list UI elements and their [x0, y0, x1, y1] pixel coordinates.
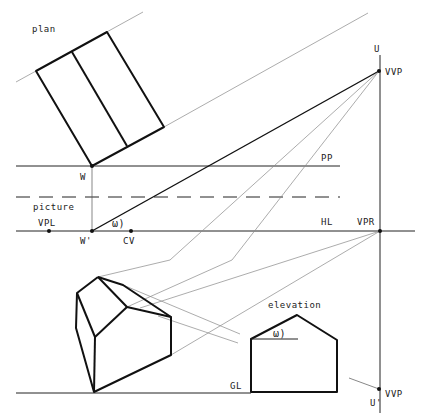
- vpr-construction-line-1: [140, 231, 380, 308]
- label-vvp-bottom: VVP: [385, 389, 403, 399]
- perspective-house-roof-edge: [98, 277, 171, 317]
- perspective-house-front-gable: [77, 293, 95, 337]
- label-omega-picture: ω): [112, 218, 125, 229]
- label-u-prime: U': [370, 398, 382, 408]
- plan-extension-line-right: [164, 13, 368, 127]
- label-cv: CV: [123, 236, 135, 246]
- label-omega-elevation: ω): [273, 328, 286, 339]
- vpr-point: [378, 229, 382, 233]
- label-w-prime: W': [80, 236, 92, 246]
- label-elevation: elevation: [268, 300, 321, 310]
- label-hl: HL: [321, 217, 333, 227]
- plan-ridge-line: [72, 52, 127, 146]
- label-gl: GL: [230, 381, 242, 391]
- w-point: [90, 164, 94, 168]
- label-picture: picture: [33, 202, 74, 212]
- cv-point: [129, 229, 133, 233]
- perspective-house-corner: [94, 337, 95, 392]
- perspective-house-roof-line: [95, 307, 127, 337]
- vvp-bottom-point: [377, 387, 381, 391]
- omega-inclined-line: [92, 71, 379, 231]
- vvp-lower-line: [349, 378, 379, 389]
- label-w: W: [80, 172, 86, 182]
- elevation-house: [251, 315, 337, 392]
- vpl-point: [47, 229, 51, 233]
- label-pp: PP: [321, 153, 333, 163]
- w-prime-point: [90, 229, 94, 233]
- perspective-house-outline: [76, 277, 171, 392]
- label-vpr: VPR: [357, 217, 375, 227]
- vvp-construction-line-4: [98, 260, 170, 277]
- perspective-diagram: plan picture elevation PP HL GL W W' VPL…: [0, 0, 426, 419]
- label-u: U: [374, 44, 380, 54]
- label-vpl: VPL: [38, 218, 56, 228]
- vvp-top-point: [377, 69, 381, 73]
- label-plan: plan: [32, 24, 56, 34]
- label-vvp-top: VVP: [385, 67, 403, 77]
